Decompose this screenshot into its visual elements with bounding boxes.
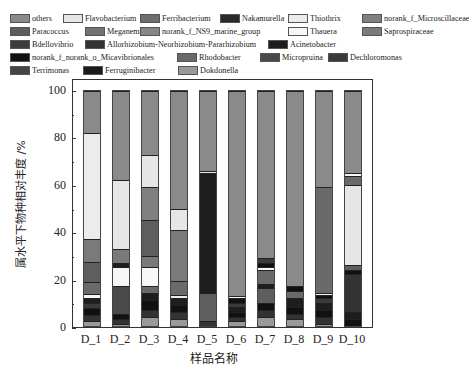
bar-segment [84, 133, 100, 239]
legend-swatch [288, 27, 308, 36]
bar-segment [316, 324, 332, 326]
y-tick-label: 0 [42, 320, 66, 335]
bar-segment [84, 321, 100, 326]
bar-segment [142, 91, 158, 154]
bar-segment [171, 312, 187, 319]
bar-segment [84, 282, 100, 294]
legend-swatch [362, 27, 382, 36]
stacked-bar-D_7 [257, 90, 275, 327]
y-tick-label: 80 [42, 130, 66, 145]
bar-segment [113, 286, 129, 314]
bar-segment [345, 185, 361, 265]
bar-segment [142, 187, 158, 220]
bar-segment [142, 267, 158, 286]
legend-item: others [10, 14, 52, 23]
bar-segment [229, 321, 245, 326]
legend-swatch [362, 14, 382, 23]
legend-swatch [83, 66, 103, 75]
bar-segment [345, 312, 361, 319]
bar-segment [345, 274, 361, 312]
legend-item: Ferribacterium [140, 14, 211, 23]
bar-segment [316, 310, 332, 317]
bar-segment [84, 239, 100, 262]
legend-label: Flavobacterium [85, 14, 136, 23]
bar-segment [258, 288, 274, 302]
bar-segment [229, 91, 245, 295]
legend-swatch [328, 53, 348, 62]
legend-swatch [260, 53, 280, 62]
bar-segment [84, 315, 100, 322]
bar-segment [258, 91, 274, 258]
legend-item: Flavobacterium [63, 14, 136, 23]
bar-segment [113, 249, 129, 263]
bar-segment [258, 310, 274, 317]
bar-segment [287, 291, 303, 298]
bar-segment [84, 262, 100, 283]
legend-swatch [140, 27, 160, 36]
bar-segment [171, 319, 187, 326]
stacked-bar-D_3 [141, 90, 159, 327]
bar-segment [142, 286, 158, 293]
legend-label: Terrimonas [32, 66, 69, 75]
legend-swatch [85, 27, 105, 36]
y-tick-label: 100 [42, 83, 66, 98]
legend-label: norank_f_NS9_marine_group [162, 27, 260, 36]
stacked-bar-D_6 [228, 90, 246, 327]
stacked-bar-D_1 [83, 90, 101, 327]
legend-swatch [268, 40, 288, 49]
bar-segment [142, 220, 158, 255]
bar-segment [258, 303, 274, 310]
bar-segment [316, 317, 332, 324]
legend-label: Allorhizobium-Neorhizobium-Pararhizobium [107, 40, 256, 49]
bar-segment [171, 298, 187, 305]
legend-swatch [10, 40, 30, 49]
legend-item: Nakamurella [220, 14, 284, 23]
bar-segment [345, 91, 361, 173]
legend-swatch [63, 14, 83, 23]
legend-swatch [177, 53, 197, 62]
bar-segment [142, 300, 158, 309]
stacked-bar-D_8 [286, 90, 304, 327]
legend-swatch [10, 66, 30, 75]
y-axis-label: 属水平下物种相对丰度 /% [12, 148, 28, 268]
bar-segment [200, 293, 216, 321]
legend-label: Dokdonella [200, 66, 238, 75]
legend-label: Ferruginibacter [105, 66, 155, 75]
bar-segment [287, 298, 303, 307]
bar-segment [316, 187, 332, 293]
legend-label: Nakamurella [242, 14, 284, 23]
legend-label: Bdellovibrio [32, 40, 73, 49]
legend-item: Allorhizobium-Neorhizobium-Pararhizobium [85, 40, 256, 49]
legend-item: Acinetobacter [268, 40, 336, 49]
bar-segment [142, 293, 158, 300]
y-tick-mark [72, 328, 76, 329]
bar-segment [171, 281, 187, 295]
bar-segment [142, 256, 158, 268]
legend-item: Ferruginibacter [83, 66, 155, 75]
legend-swatch [10, 27, 30, 36]
legend-label: Saprospiraceae [384, 27, 434, 36]
bar-segment [171, 209, 187, 230]
legend-item: Terrimonas [10, 66, 69, 75]
bar-segment [113, 180, 129, 248]
legend-item: norank_f_norank_o_Micavibrionales [10, 53, 154, 62]
y-tick-label: 40 [42, 225, 66, 240]
plot-area [72, 79, 373, 328]
stacked-bar-D_4 [170, 90, 188, 327]
legend-item: Bdellovibrio [10, 40, 73, 49]
bar-segment [113, 267, 129, 286]
bar-segment [171, 230, 187, 282]
legend-item: norank_f_Microscillaceae [362, 14, 469, 23]
legend-item: Rhodobacter [177, 53, 241, 62]
legend-label: Micropruina [282, 53, 323, 62]
bar-segment [200, 321, 216, 326]
legend-swatch [220, 14, 240, 23]
bar-segment [113, 91, 129, 180]
legend-item: Saprospiraceae [362, 27, 434, 36]
bar-segment [316, 303, 332, 310]
legend-label: Paracoccus [32, 27, 69, 36]
legend-item: Meganema [85, 27, 143, 36]
bar-segment [171, 305, 187, 312]
bar-segment [84, 308, 100, 315]
bar-segment [142, 155, 158, 188]
